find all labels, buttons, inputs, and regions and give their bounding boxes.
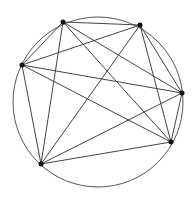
- vertex-P5: [169, 140, 174, 145]
- chord-P2-P4: [140, 25, 182, 93]
- complete-graph-diagram: [0, 0, 196, 198]
- chord-P2-P3: [22, 25, 140, 65]
- chord-P2-P6: [41, 25, 140, 164]
- chord-P1-P6: [41, 22, 63, 164]
- vertex-P1: [61, 20, 66, 25]
- chords: [22, 22, 182, 164]
- chord-P3-P5: [22, 65, 171, 142]
- chord-P3-P6: [22, 65, 41, 164]
- vertex-P3: [20, 63, 25, 68]
- vertex-P6: [39, 162, 44, 167]
- chord-P4-P6: [41, 93, 182, 164]
- vertex-P4: [180, 91, 185, 96]
- chord-P5-P6: [41, 142, 171, 164]
- vertex-P2: [138, 23, 143, 28]
